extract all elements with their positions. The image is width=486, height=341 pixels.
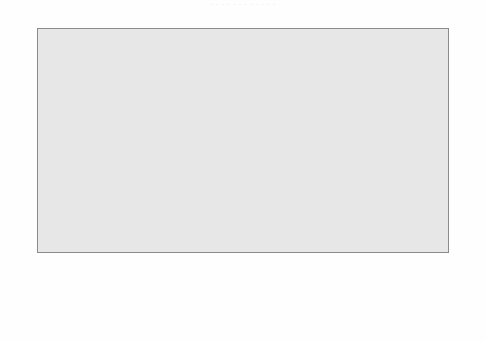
bars-container [38,29,448,252]
x-axis-labels [37,254,449,341]
cut-off-title: · · · · · · · · · · · · [0,0,486,11]
chart-page: · · · · · · · · · · · · [0,0,486,341]
y-axis-right [452,28,486,254]
y-axis-left [0,28,34,254]
plot-area [37,28,449,253]
